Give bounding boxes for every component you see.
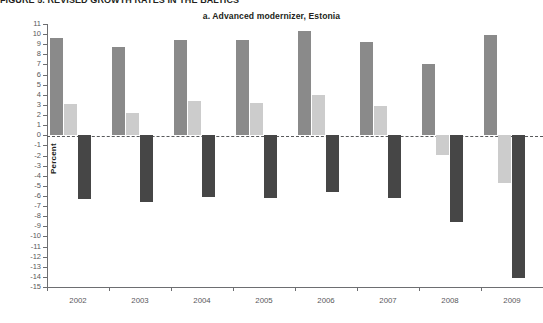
x-tick	[47, 287, 48, 291]
x-tick-label: 2006	[296, 296, 356, 305]
y-tick-label: -3	[1, 162, 41, 170]
bar	[174, 40, 187, 135]
clipped-banner: FIGURE 5. REVISED GROWTH RATES IN THE BA…	[0, 0, 543, 5]
bar	[236, 40, 249, 135]
x-tick-label: 2009	[482, 296, 542, 305]
x-tick	[357, 287, 358, 291]
plot-area: 11109876543210-1-2-3-4-5-6-7-8-9-10-11-1…	[47, 24, 543, 287]
y-tick-label: -12	[1, 253, 41, 261]
y-tick-label: -11	[1, 243, 41, 251]
bar	[512, 135, 525, 278]
bar	[188, 101, 201, 135]
y-tick-label: 9	[1, 40, 41, 48]
y-tick-label: -13	[1, 263, 41, 271]
bar	[112, 47, 125, 135]
x-tick-label: 2004	[172, 296, 232, 305]
x-tick-label: 2002	[48, 296, 108, 305]
y-tick-label: 3	[1, 101, 41, 109]
bar	[450, 135, 463, 222]
x-tick-label: 2007	[358, 296, 418, 305]
x-tick-label: 2005	[234, 296, 294, 305]
y-tick-label: -6	[1, 192, 41, 200]
x-tick	[419, 287, 420, 291]
y-tick-label: -2	[1, 152, 41, 160]
bar	[498, 135, 511, 183]
x-tick	[171, 287, 172, 291]
y-tick-label: 0	[1, 131, 41, 139]
x-tick-label: 2003	[110, 296, 170, 305]
x-tick	[233, 287, 234, 291]
y-tick-label: 2	[1, 111, 41, 119]
bar	[374, 106, 387, 135]
x-tick	[481, 287, 482, 291]
y-tick-label: -7	[1, 202, 41, 210]
bar	[140, 135, 153, 202]
bar	[436, 135, 449, 155]
bars-layer	[47, 24, 543, 287]
y-tick-label: -10	[1, 232, 41, 240]
bar	[298, 31, 311, 135]
y-tick-label: 5	[1, 81, 41, 89]
bar	[388, 135, 401, 198]
bar	[50, 38, 63, 135]
y-axis-title: Percent	[49, 143, 58, 174]
y-tick-label: -9	[1, 222, 41, 230]
bar	[126, 113, 139, 135]
figure-panel: FIGURE 5. REVISED GROWTH RATES IN THE BA…	[0, 0, 543, 323]
y-tick-label: -5	[1, 182, 41, 190]
bar	[484, 35, 497, 135]
chart-title: a. Advanced modernizer, Estonia	[0, 11, 543, 21]
bar	[202, 135, 215, 197]
x-tick-label: 2008	[420, 296, 480, 305]
y-tick-label: -8	[1, 212, 41, 220]
bar	[64, 104, 77, 135]
bar	[422, 64, 435, 135]
clipped-banner-text: FIGURE 5. REVISED GROWTH RATES IN THE BA…	[0, 0, 239, 5]
y-tick-label: -1	[1, 141, 41, 149]
y-tick-label: -4	[1, 172, 41, 180]
bar	[264, 135, 277, 198]
bar	[312, 95, 325, 135]
y-tick-label: 10	[1, 30, 41, 38]
y-tick-label: 8	[1, 50, 41, 58]
y-tick-label: 11	[1, 20, 41, 28]
y-tick-label: -14	[1, 273, 41, 281]
bar	[326, 135, 339, 192]
bar	[78, 135, 91, 199]
x-tick	[109, 287, 110, 291]
y-tick-label: 1	[1, 121, 41, 129]
y-tick-label: -15	[1, 283, 41, 291]
y-tick-label: 7	[1, 60, 41, 68]
bar	[250, 103, 263, 135]
x-tick	[295, 287, 296, 291]
y-tick-label: 6	[1, 71, 41, 79]
y-tick-label: 4	[1, 91, 41, 99]
bar	[360, 42, 373, 135]
